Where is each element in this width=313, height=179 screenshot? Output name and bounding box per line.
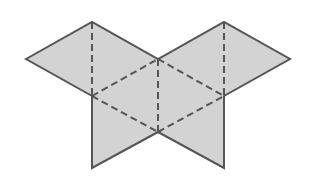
diagram-canvas <box>0 0 313 179</box>
net-diagram <box>0 0 313 179</box>
